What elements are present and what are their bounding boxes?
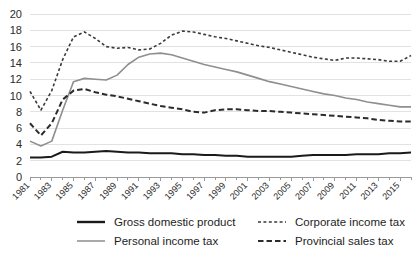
- legend-label-gross-domestic-product: Gross domestic product: [114, 216, 235, 228]
- legend-item-corporate-income-tax[interactable]: Corporate income tax: [258, 212, 415, 231]
- x-axis-tick-label: 2015: [380, 180, 401, 201]
- y-axis-tick-label: 14: [10, 57, 22, 69]
- x-axis-tick-label: 1999: [206, 180, 227, 201]
- series-line-personal-income-tax: [30, 53, 411, 146]
- legend-swatch-corporate-income-tax: [258, 216, 286, 228]
- x-axis-tick-label: 1989: [97, 180, 118, 201]
- x-axis-tick-label: 1991: [119, 180, 140, 201]
- y-axis-tick-label: 2: [16, 155, 22, 167]
- x-axis-tick-label: 2013: [359, 180, 380, 201]
- legend-item-personal-income-tax[interactable]: Personal income tax: [77, 231, 247, 250]
- y-axis-tick-label: 20: [10, 8, 22, 20]
- y-axis-tick-label: 4: [16, 138, 22, 150]
- line-chart: 0246810121416182019811983198519871989199…: [0, 0, 415, 259]
- legend-swatch-provincial-sales-tax: [258, 235, 286, 247]
- legend-item-gross-domestic-product[interactable]: Gross domestic product: [77, 212, 247, 231]
- chart-legend: Gross domestic product Personal income t…: [60, 212, 400, 254]
- x-axis-tick-label: 2005: [271, 180, 292, 201]
- y-axis-tick-label: 6: [16, 122, 22, 134]
- y-axis-tick-label: 8: [16, 106, 22, 118]
- y-axis-tick-label: 18: [10, 24, 22, 36]
- x-axis-tick-label: 2003: [250, 180, 271, 201]
- legend-item-provincial-sales-tax[interactable]: Provincial sales tax: [258, 231, 415, 250]
- x-axis-tick-label: 1981: [10, 180, 31, 201]
- legend-label-corporate-income-tax: Corporate income tax: [295, 216, 405, 228]
- x-axis-tick-label: 2009: [315, 180, 336, 201]
- y-axis-tick-label: 16: [10, 41, 22, 53]
- y-axis-tick-label: 10: [10, 90, 22, 102]
- y-axis-tick-label: 0: [16, 171, 22, 183]
- x-axis-tick-label: 1985: [54, 180, 75, 201]
- x-axis-tick-label: 1987: [75, 180, 96, 201]
- series-line-corporate-income-tax: [30, 31, 411, 110]
- legend-column-left: Gross domestic product Personal income t…: [77, 212, 247, 250]
- x-axis-tick-label: 1997: [184, 180, 205, 201]
- x-axis-tick-label: 2001: [228, 180, 249, 201]
- x-axis-tick-label: 1995: [163, 180, 184, 201]
- legend-label-provincial-sales-tax: Provincial sales tax: [295, 235, 393, 247]
- x-axis-tick-label: 2007: [293, 180, 314, 201]
- y-axis-tick-label: 12: [10, 73, 22, 85]
- legend-label-personal-income-tax: Personal income tax: [114, 235, 218, 247]
- x-axis-tick-label: 1993: [141, 180, 162, 201]
- series-line-gross-domestic-product: [30, 151, 411, 158]
- legend-column-right: Corporate income tax Provincial sales ta…: [258, 212, 415, 250]
- legend-swatch-personal-income-tax: [77, 235, 105, 247]
- x-axis-tick-label: 2011: [337, 180, 358, 201]
- legend-swatch-gross-domestic-product: [77, 216, 105, 228]
- x-axis-tick-label: 1983: [32, 180, 53, 201]
